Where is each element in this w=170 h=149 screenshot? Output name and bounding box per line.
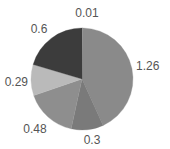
pie-chart: 0.01 1.26 0.3 0.48 0.29 0.6 — [0, 0, 170, 149]
slice-label: 1.26 — [136, 59, 160, 73]
slice-label: 0.01 — [75, 6, 99, 20]
slice-label: 0.3 — [84, 133, 101, 147]
slice-label: 0.29 — [5, 75, 29, 89]
slice-label: 0.48 — [23, 122, 47, 136]
pie-slices — [31, 28, 133, 130]
slice-label: 0.6 — [31, 22, 48, 36]
